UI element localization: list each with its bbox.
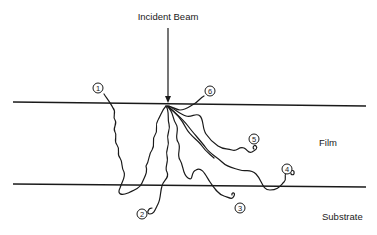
trajectory-5 bbox=[169, 106, 257, 153]
svg-text:6: 6 bbox=[208, 87, 212, 96]
svg-text:2: 2 bbox=[140, 210, 144, 219]
svg-text:1: 1 bbox=[96, 84, 100, 93]
marker-4: 4 bbox=[282, 164, 292, 174]
trajectory-3 bbox=[167, 106, 234, 198]
marker-1: 1 bbox=[93, 83, 103, 93]
svg-text:5: 5 bbox=[252, 135, 256, 144]
marker-5: 5 bbox=[249, 134, 259, 144]
marker-3: 3 bbox=[235, 203, 245, 213]
electron-trajectory-diagram: Incident Beam Film Substrate 1 2 3 4 5 6 bbox=[0, 0, 377, 235]
substrate-label: Substrate bbox=[322, 211, 363, 222]
svg-text:3: 3 bbox=[238, 204, 242, 213]
trajectory-6 bbox=[167, 96, 204, 110]
svg-text:4: 4 bbox=[285, 165, 289, 174]
marker-2: 2 bbox=[137, 209, 147, 219]
film-substrate-interface-line bbox=[13, 184, 366, 187]
arrow-head-icon bbox=[165, 96, 171, 103]
marker-6: 6 bbox=[205, 86, 215, 96]
film-surface-line bbox=[13, 102, 366, 106]
incident-beam-label: Incident Beam bbox=[138, 11, 199, 22]
trajectory-2 bbox=[148, 106, 170, 214]
film-label: Film bbox=[319, 137, 337, 148]
trajectory-1 bbox=[104, 94, 166, 194]
